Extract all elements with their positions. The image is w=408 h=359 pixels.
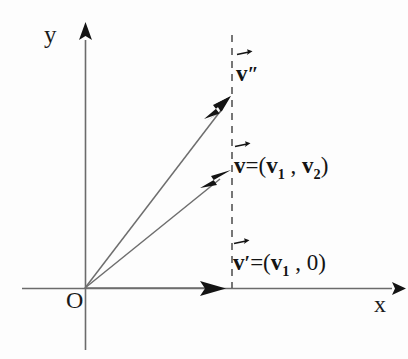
vector-v-double-prime-shaft — [85, 109, 222, 288]
vector-v-prime-equation: =(v1 , 0) — [250, 250, 326, 275]
component-zero: 0 — [307, 250, 319, 275]
component-v2-subscript: 2 — [314, 166, 321, 182]
y-axis-arrowhead — [79, 22, 92, 40]
x-axis-label: x — [374, 292, 386, 316]
equation-close-paren: ) — [321, 153, 329, 178]
component-v1-subscript: 1 — [278, 166, 285, 182]
equation-open-paren: =( — [246, 153, 267, 178]
vector-v-double-prime-label: v ″ — [236, 60, 259, 85]
component-v2-letter: v — [302, 153, 314, 178]
v-glyph-double-prime: v — [236, 60, 248, 85]
v-letter: v — [233, 250, 245, 275]
vector-v-arrowhead — [200, 170, 231, 188]
v-glyph: v — [234, 152, 246, 177]
component-v1-letter: v — [266, 153, 278, 178]
vector-v-prime-label: v ′=(v1 , 0) — [233, 249, 326, 278]
component-v1-letter: v — [271, 250, 283, 275]
y-axis-label: y — [44, 22, 57, 47]
vector-v-label: v =(v1 , v2) — [234, 152, 328, 181]
equation-separator: , — [285, 153, 302, 178]
equation-open-paren: =( — [250, 250, 271, 275]
vector-v-shaft — [85, 179, 220, 288]
v-glyph-prime: v — [233, 249, 245, 274]
diagram-canvas-svg — [0, 0, 408, 359]
origin-label: O — [66, 288, 83, 312]
vector-v-double-prime-arrowhead — [206, 96, 231, 121]
equation-close-paren: ) — [318, 250, 326, 275]
double-prime-mark: ″ — [248, 63, 259, 85]
vector-diagram-figure: y x O v ″ v =(v1 , v2) v ′ — [0, 0, 408, 359]
vector-v-equation: =(v1 , v2) — [246, 153, 329, 178]
x-axis-arrowhead — [392, 282, 406, 295]
v-letter: v — [236, 61, 248, 86]
v-letter: v — [234, 153, 246, 178]
equation-separator: , — [289, 250, 306, 275]
